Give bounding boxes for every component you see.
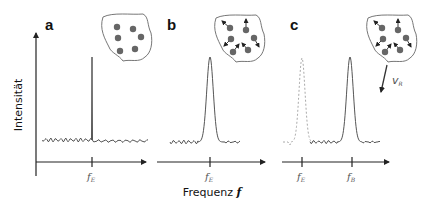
tick-label-fE-c: fE: [296, 171, 306, 183]
tick-label-fE-b: fE: [204, 171, 214, 183]
particle: [138, 34, 144, 40]
particle: [403, 35, 409, 41]
panel-a: a fE: [36, 14, 152, 183]
particle: [379, 25, 385, 31]
particle: [397, 47, 403, 53]
particle: [227, 25, 233, 31]
particle: [114, 24, 120, 30]
panel-c: c fE fB vR: [282, 15, 417, 183]
particle: [382, 49, 388, 55]
particle: [395, 27, 401, 33]
particle: [380, 36, 386, 42]
particle: [132, 46, 138, 52]
doppler-figure: Intensität a fE b fE c fE fB: [0, 0, 440, 203]
particle-cloud-b: [215, 15, 265, 62]
tick-label-fB-c: fB: [346, 171, 356, 183]
particle: [243, 27, 249, 33]
panel-b: b fE: [157, 15, 265, 183]
particle-cloud-c: [367, 15, 417, 62]
spectrum-curve-b: [170, 57, 240, 144]
spectrum-curve-c: [310, 57, 380, 144]
particle: [245, 47, 251, 53]
particle-cloud-a: [102, 14, 152, 61]
velocity-label: vR: [392, 74, 403, 87]
panel-label-a: a: [45, 16, 54, 33]
y-axis-title: Intensität: [12, 78, 25, 131]
particle: [115, 35, 121, 41]
panel-label-c: c: [290, 16, 298, 33]
cloud-outline: [367, 15, 417, 62]
velocity-arrow: [381, 65, 387, 92]
cloud-outline: [215, 15, 265, 62]
cloud-outline: [102, 14, 152, 61]
particle: [228, 36, 234, 42]
particle: [230, 49, 236, 55]
tick-label-fE-a: fE: [86, 171, 96, 183]
reference-curve-dashed-c: [283, 58, 313, 145]
x-axis-title: Frequenz f: [183, 186, 244, 199]
particle: [130, 26, 136, 32]
panel-label-b: b: [167, 16, 176, 33]
particle: [117, 48, 123, 54]
particle: [251, 35, 257, 41]
spectrum-curve-a: [42, 57, 148, 142]
